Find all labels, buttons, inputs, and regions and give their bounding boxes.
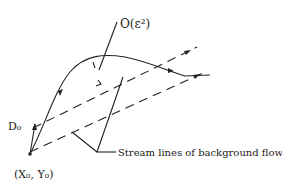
origin-label: (X₀, Y₀) xyxy=(14,168,54,181)
streamline-label: Stream lines of background flow xyxy=(118,147,282,158)
arrowhead-stream-1 xyxy=(184,50,191,55)
order-label: O(ε²) xyxy=(120,17,150,31)
origin-point xyxy=(28,152,32,156)
d0-label: D₀ xyxy=(8,120,22,133)
order-leader-line xyxy=(99,22,117,70)
displacement-tick-bottom xyxy=(96,80,101,86)
displacement-tick-top xyxy=(93,62,95,68)
streamline-lower xyxy=(30,72,205,152)
streamline-leader xyxy=(72,77,123,152)
trajectory-curve xyxy=(30,56,210,154)
arrowhead-stream-2 xyxy=(193,74,200,79)
trajectory-diagram: O(ε²) D₀ (X₀, Y₀) Stream lines of backgr… xyxy=(0,0,282,188)
